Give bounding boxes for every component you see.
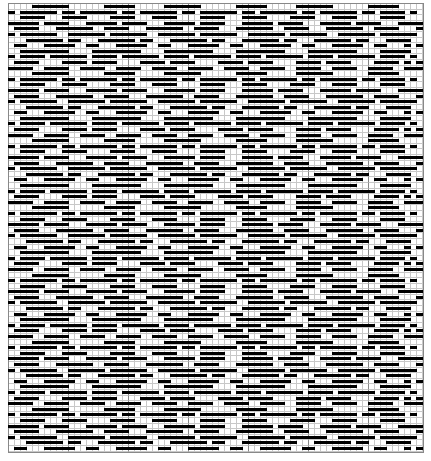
pattern-grid <box>8 3 424 453</box>
grid-cell <box>417 446 423 452</box>
